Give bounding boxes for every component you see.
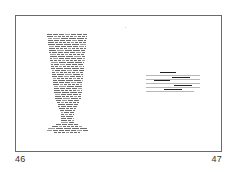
calligram-word <box>64 84 67 85</box>
calligram-word <box>74 96 77 97</box>
calligram-word <box>66 132 69 133</box>
calligram-word <box>58 104 65 105</box>
calligram-word <box>66 36 69 37</box>
calligram-word <box>51 64 53 65</box>
calligram-word <box>74 56 81 57</box>
calligram-word <box>64 48 67 49</box>
calligram-word <box>57 78 60 79</box>
calligram-word <box>77 34 82 35</box>
calligram-word <box>80 84 82 85</box>
calligram-word <box>56 48 59 49</box>
calligram-word <box>64 112 69 113</box>
calligram-word <box>55 70 60 71</box>
calligram-word <box>66 64 71 65</box>
calligram-word <box>70 108 73 109</box>
calligram-word <box>73 46 78 47</box>
calligram-word <box>61 120 67 121</box>
calligram-word <box>79 94 81 95</box>
calligram-word <box>65 102 68 103</box>
calligram-word <box>53 82 58 83</box>
page-number-right: 47 <box>211 154 222 164</box>
calligram-word <box>70 112 74 113</box>
calligram-word <box>85 38 87 39</box>
calligram-word <box>76 84 79 85</box>
calligram-word <box>81 74 83 75</box>
calligram-word <box>73 102 76 103</box>
calligram-word <box>68 84 71 85</box>
calligram-word <box>68 124 73 125</box>
calligram-word <box>59 130 64 131</box>
calligram-word <box>62 132 65 133</box>
calligram-word <box>80 128 87 129</box>
calligram-word <box>65 58 70 59</box>
calligram-word <box>49 46 54 47</box>
calligram-word <box>64 128 71 129</box>
calligram-word <box>78 36 81 37</box>
calligram-word <box>66 108 69 109</box>
calligram-word <box>76 52 81 53</box>
calligram-word <box>69 38 76 39</box>
calligram-word <box>62 96 65 97</box>
calligram-word <box>61 38 68 39</box>
calligram-word <box>54 90 60 91</box>
calligram-word <box>69 90 72 91</box>
calligram-word <box>55 46 60 47</box>
calligram-word <box>72 128 79 129</box>
calligram-word <box>56 128 63 129</box>
calligram-word <box>82 56 85 57</box>
calligram-word <box>65 50 72 51</box>
calligram-word <box>78 88 82 89</box>
calligram-word <box>67 94 72 95</box>
calligram-word <box>58 60 61 61</box>
calligram-word <box>64 52 69 53</box>
calligram-word <box>81 54 84 55</box>
calligram-word <box>80 44 86 45</box>
calligram-word <box>75 42 78 43</box>
calligram-word <box>61 46 66 47</box>
calligram-word <box>51 62 58 63</box>
calligram-word <box>62 100 67 101</box>
calligram-word <box>72 84 75 85</box>
calligram-word <box>61 112 63 113</box>
calligram-word <box>61 54 64 55</box>
calligram-word <box>78 96 81 97</box>
calligram-word <box>50 58 52 59</box>
calligram-word <box>51 68 55 69</box>
calligram-word <box>59 82 64 83</box>
calligram-word <box>54 60 57 61</box>
calligram-word <box>52 74 56 75</box>
calligram-word <box>61 118 66 119</box>
calligram-word <box>73 114 74 115</box>
underlined-phrase <box>154 80 170 81</box>
calligram-word <box>65 90 68 91</box>
calligram-word <box>54 86 58 87</box>
calligram-word <box>65 54 68 55</box>
calligram-word <box>80 68 84 69</box>
calligram-word <box>78 40 83 41</box>
calligram-word <box>70 52 75 53</box>
calligram-word <box>80 72 83 73</box>
calligram-word <box>57 54 60 55</box>
calligram-word <box>67 106 72 107</box>
calligram-word <box>73 74 80 75</box>
calligram-word <box>72 44 79 45</box>
calligram-word <box>48 40 53 41</box>
calligram-word <box>53 78 56 79</box>
calligram-word <box>76 76 81 77</box>
calligram-word <box>70 60 73 61</box>
calligram-word <box>51 66 54 67</box>
calligram-word <box>55 94 60 95</box>
calligram-word <box>48 44 55 45</box>
calligram-word <box>61 78 64 79</box>
calligram-word <box>72 40 77 41</box>
calligram-word <box>83 130 88 131</box>
calligram-word <box>56 68 63 69</box>
calligram-word <box>76 48 79 49</box>
calligram-word <box>75 66 78 67</box>
calligram-word <box>57 102 60 103</box>
calligram-word <box>52 72 55 73</box>
calligram-word <box>83 66 84 67</box>
calligram-word <box>48 38 52 39</box>
calligram-word <box>62 124 67 125</box>
calligram-word <box>61 122 68 123</box>
